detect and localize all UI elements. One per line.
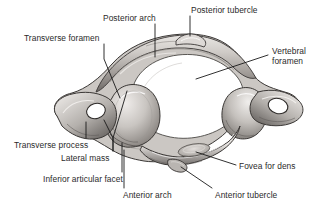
label-fovea-for-dens: Fovea for dens — [239, 162, 296, 172]
anatomical-figure: Transverse foramen Posterior arch Poster… — [0, 0, 315, 208]
label-posterior-arch: Posterior arch — [103, 14, 156, 24]
label-posterior-tubercle: Posterior tubercle — [191, 6, 258, 16]
label-transverse-foramen: Transverse foramen — [24, 34, 100, 44]
leader-anterior-tubercle — [181, 167, 212, 188]
right-transverse-process-region — [250, 90, 303, 125]
label-anterior-tubercle: Anterior tubercle — [215, 191, 277, 201]
label-lateral-mass: Lateral mass — [61, 154, 110, 164]
label-inferior-articular-facet: Inferior articular facet — [43, 175, 123, 185]
left-transverse-process-region — [54, 92, 116, 139]
label-transverse-process: Transverse process — [14, 141, 88, 151]
label-anterior-arch: Anterior arch — [123, 191, 172, 201]
label-vertebral-foramen-line2: foramen — [272, 57, 303, 67]
